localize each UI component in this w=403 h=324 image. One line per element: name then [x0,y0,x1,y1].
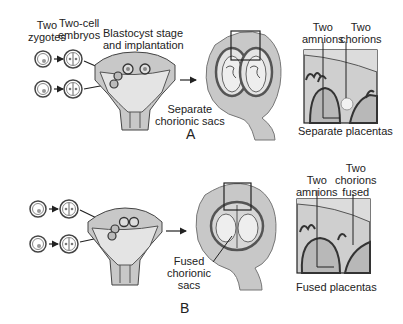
label-two-chorions-fused: Twochorionsfused [335,162,377,198]
label-fused-placentas: Fused placentas [296,281,377,293]
panel-a-inset [304,42,377,123]
label-two-cell-embryos: Two-cellembryos [58,17,100,41]
panel-b-letter: B [180,300,189,316]
label-fused-chorionic-sacs: Fusedchorionicsacs [167,255,211,291]
label-blastocyst: Blastocyst stageand implantation [103,27,184,51]
label-two-amnions-a: Twoamnions [302,21,344,45]
panel-b-uterus [88,208,162,285]
label-two-amnions-b: Twoamnions [296,174,338,198]
panel-a-letter: A [186,126,195,142]
label-separate-chorionic-sacs: Separatechorionic sacs [155,103,225,127]
label-separate-placentas: Separate placentas [298,125,393,137]
label-two-chorions-a: Twochorions [340,21,382,45]
panel-b-inset [297,190,370,273]
